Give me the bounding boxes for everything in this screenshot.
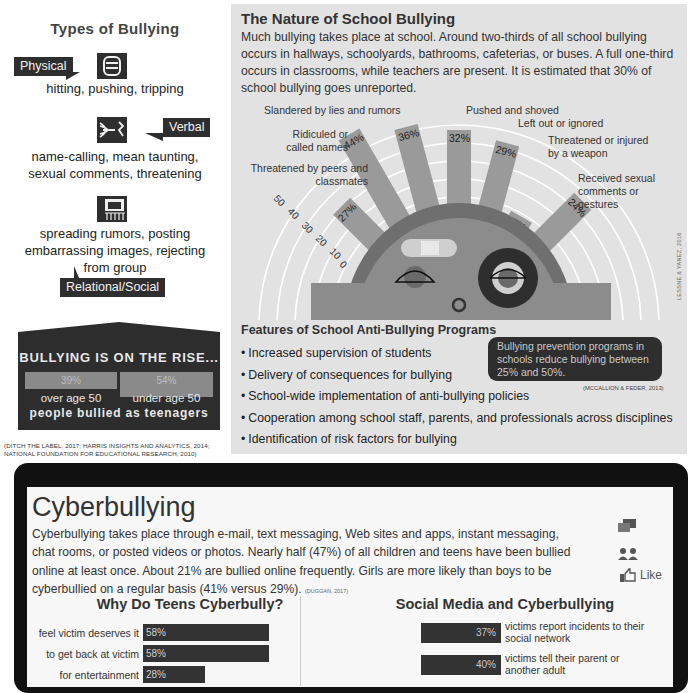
cyber-title: Cyberbullying [32,492,196,523]
like-button[interactable]: Like [620,568,662,582]
label-slandered: Slandered by lies and rumors [264,104,401,117]
shout-icon [97,117,127,143]
why-bar: 58% [143,645,269,662]
social-bar: 37% [421,623,501,643]
rise-bar-over50: 39% [25,372,117,389]
types-title: Types of Bullying [0,20,230,37]
cyber-body: Cyberbullying takes place through e-mail… [32,525,584,600]
label-ridiculed: Ridiculed or called names [268,128,348,154]
tag-tail [66,72,80,80]
why-row: feel victim deserves it 58% [4,624,269,641]
rise-label-over50: over age 50 [25,392,117,404]
social-row: 40% victims tell their parent or another… [421,653,655,677]
rise-source: (DITCH THE LABEL, 2017; HARRIS INSIGHTS … [4,442,210,458]
feature-item: Identification of risk factors for bully… [241,429,673,451]
nature-body: Much bullying takes place at school. Aro… [241,29,681,97]
fist-icon [97,53,127,79]
label-weapon: Threatened or injured by a weapon [548,134,658,160]
nature-title: The Nature of School Bullying [241,10,455,27]
why-bar: 58% [143,624,269,641]
features-title: Features of School Anti-Bullying Program… [241,323,496,337]
label-sexual: Received sexual comments or gestures [578,172,678,211]
tag-tail [145,133,163,141]
callout-source: (MCCALLION & FEDER, 2013) [583,385,664,391]
rise-roof [18,322,220,332]
label-left-out: Left out or ignored [518,117,603,130]
social-bar: 40% [421,655,501,675]
physical-desc: hitting, pushing, tripping [0,80,230,97]
social-title: Social Media and Cyberbullying [370,596,640,612]
verbal-desc: name-calling, mean taunting, sexual comm… [0,148,230,182]
like-label: Like [640,568,662,582]
tag-physical: Physical [14,57,73,76]
chat-icon[interactable] [618,519,636,537]
svg-text:10: 10 [328,246,344,262]
relational-desc: spreading rumors, posting embarrassing i… [0,225,230,276]
computer-icon [97,196,127,222]
svg-text:40: 40 [286,206,302,222]
svg-text:50: 50 [272,193,288,209]
svg-text:32%: 32% [449,132,470,144]
friends-icon[interactable] [618,546,640,564]
prevention-callout: Bullying prevention programs in schools … [488,337,662,381]
section-divider [300,596,301,686]
tag-verbal: Verbal [163,118,210,137]
feature-item: Cooperation among school staff, parents,… [241,408,673,430]
rise-subtitle: people bullied as teenagers [18,406,220,420]
thumbs-up-icon [620,568,636,582]
tag-relational: Relational/Social [60,278,165,297]
why-row: to get back at victim 58% [4,645,269,662]
chart-credit: LESSNE & YANEZ, 2016 [676,232,682,300]
rise-title: BULLYING IS ON THE RISE... [18,350,220,365]
why-bar: 28% [143,666,205,683]
label-threatened-peers: Threatened by peers and classmates [240,162,368,188]
label-pushed: Pushed and shoved [466,104,559,117]
why-row: for entertainment 28% [4,666,205,683]
why-title: Why Do Teens Cyberbully? [80,596,300,612]
social-row: 37% victims report incidents to their so… [421,621,655,645]
rise-label-under50: under age 50 [120,392,213,404]
tag-tail [74,266,79,278]
